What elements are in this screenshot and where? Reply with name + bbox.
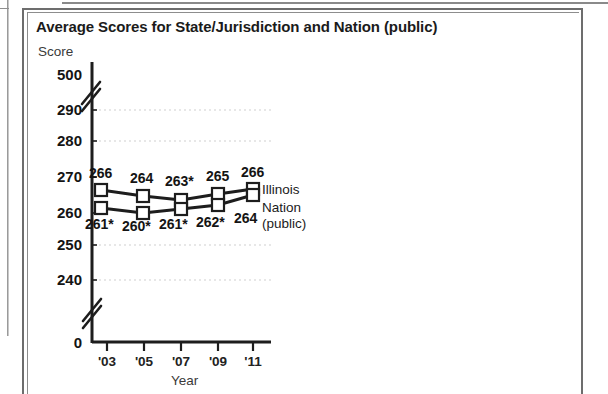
chart-plot-area [0, 0, 608, 394]
legend-item-nation-public: (public) [262, 216, 306, 231]
legend-item-illinois: Illinois [262, 182, 300, 197]
point-label-nation-05: 260* [122, 218, 151, 234]
point-label-illinois-11: 266 [241, 164, 264, 180]
point-label-nation-03: 261* [85, 216, 114, 232]
y-tick-label-270: 270 [40, 168, 82, 185]
y-tick-label-260: 260 [40, 204, 82, 221]
x-tick-label-07: '07 [161, 354, 201, 369]
point-label-nation-11: 264 [234, 210, 257, 226]
x-tick-label-03: '03 [87, 354, 127, 369]
y-tick-label-500: 500 [40, 66, 82, 83]
y-tick-label-290: 290 [40, 101, 82, 118]
y-tick-label-240: 240 [40, 271, 82, 288]
x-tick-label-11: '11 [233, 354, 273, 369]
y-tick-label-250: 250 [40, 236, 82, 253]
point-label-illinois-07: 263* [165, 173, 194, 189]
point-label-illinois-05: 264 [130, 170, 153, 186]
x-tick-label-05: '05 [124, 354, 164, 369]
x-tick-label-09: '09 [198, 354, 238, 369]
y-tick-label-0: 0 [40, 334, 82, 351]
point-label-illinois-09: 265 [206, 168, 229, 184]
point-label-nation-09: 262* [196, 214, 225, 230]
y-tick-label-280: 280 [40, 132, 82, 149]
legend-item-nation: Nation [262, 200, 301, 215]
point-label-nation-07: 261* [159, 216, 188, 232]
point-label-illinois-03: 266 [89, 165, 112, 181]
